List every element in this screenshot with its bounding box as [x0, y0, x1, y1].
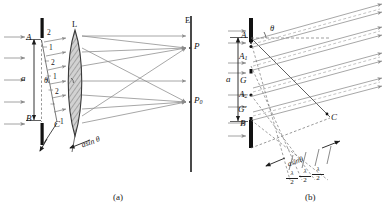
segment-number-a-1: 2	[47, 29, 51, 37]
panel-b-outgoing-rays	[253, 4, 382, 120]
panel-a-converging-rays	[82, 36, 186, 123]
caption-b: (b)	[305, 192, 316, 202]
segment-number-a-6: 1	[60, 118, 64, 126]
panel-b	[228, 4, 382, 180]
optics-diagram-svg	[0, 0, 384, 217]
caption-a: (a)	[113, 192, 123, 202]
label-A1-b: A1	[239, 52, 248, 61]
label-A-a: A	[26, 33, 32, 42]
focus-point-P	[189, 47, 191, 49]
segment-number-a-4: 1	[53, 73, 57, 81]
label-A-b: A	[241, 31, 247, 40]
axial-point-P0	[189, 101, 191, 103]
aperture-dimension-a	[26, 40, 41, 121]
slit-barrier-top-a	[41, 18, 44, 38]
label-B-a: B	[26, 114, 32, 123]
zone-marker-Gprime	[250, 117, 253, 122]
slit-barrier-bottom-b	[249, 120, 253, 148]
segment-number-a-3: 2	[51, 59, 55, 67]
panel-b-lower-wavefront	[251, 118, 330, 148]
label-a-width-b: a	[226, 75, 231, 84]
half-wave-fraction-2: λ 2	[299, 168, 311, 184]
label-theta-a: θ	[44, 77, 48, 85]
label-P-point: P	[194, 42, 200, 51]
label-Gprime-b: G′	[238, 105, 246, 114]
figure-root: A B a θ C L E P P0 2 1 2 1 2 1 asin θ A …	[0, 0, 384, 217]
label-P0-point: P0	[194, 96, 203, 105]
label-a-width-a: a	[21, 74, 26, 83]
half-wave-fraction-3: λ 2	[312, 166, 324, 182]
label-theta-b: θ	[270, 24, 274, 33]
label-G-b: G	[240, 76, 247, 85]
half-wave-fraction-1: λ 2	[286, 170, 298, 186]
label-B-b: B	[240, 119, 246, 128]
label-A2-b: A2	[239, 90, 248, 99]
panel-a	[4, 16, 191, 172]
label-E-screen: E	[185, 16, 190, 25]
label-L-lens: L	[72, 20, 77, 29]
label-C-b: C	[331, 113, 337, 122]
segment-number-a-2: 1	[49, 44, 53, 52]
zone-marker-G	[250, 69, 253, 74]
point-C-b	[326, 113, 329, 116]
slit-barrier-bottom-a	[41, 123, 44, 145]
segment-number-a-5: 2	[55, 88, 59, 96]
lens-L	[68, 30, 82, 136]
